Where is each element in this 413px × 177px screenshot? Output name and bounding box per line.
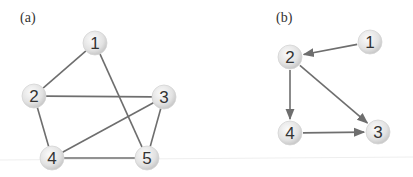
node-label: 3 — [159, 88, 168, 107]
node-a-5: 5 — [135, 146, 159, 170]
node-b-1: 1 — [358, 30, 382, 54]
node-label: 4 — [47, 149, 56, 168]
node-label: 1 — [90, 34, 99, 53]
edges-layer — [37, 44, 367, 158]
node-a-3: 3 — [152, 85, 176, 109]
node-a-4: 4 — [40, 146, 64, 170]
panel-label-a: (a) — [20, 10, 36, 26]
node-b-2: 2 — [278, 45, 302, 69]
node-a-1: 1 — [83, 31, 107, 55]
edge-a-3-5 — [150, 109, 161, 147]
edge-b-4-3 — [303, 132, 364, 133]
edge-a-2-3 — [46, 96, 152, 97]
graph-diagram: 123451234 (a)(b) — [0, 0, 413, 177]
edge-b-2-3 — [300, 65, 367, 122]
node-label: 4 — [285, 124, 294, 143]
edge-a-3-4 — [63, 103, 154, 153]
edge-b-1-2 — [304, 44, 357, 54]
nodes-layer: 123451234 — [22, 30, 390, 170]
node-label: 2 — [285, 48, 294, 67]
node-label: 2 — [29, 87, 38, 106]
edge-a-2-4 — [37, 108, 48, 147]
edge-a-1-5 — [100, 54, 142, 147]
node-label: 3 — [373, 123, 382, 142]
node-label: 5 — [142, 149, 151, 168]
node-label: 1 — [365, 33, 374, 52]
node-a-2: 2 — [22, 84, 46, 108]
panel-label-b: (b) — [276, 10, 293, 26]
panel-labels: (a)(b) — [20, 10, 293, 26]
node-b-3: 3 — [366, 120, 390, 144]
edge-a-1-2 — [43, 51, 86, 88]
node-b-4: 4 — [278, 121, 302, 145]
